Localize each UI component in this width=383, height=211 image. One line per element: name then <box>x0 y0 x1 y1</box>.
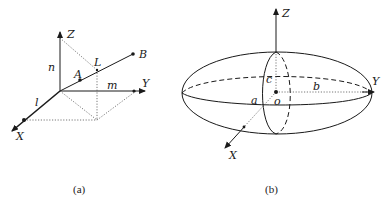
diagram-a: Z B L A n m Y l X <box>12 28 151 143</box>
meridian-back <box>276 52 290 134</box>
diagram-b: Z c b Y a o X <box>182 7 381 162</box>
label-l: l <box>35 96 39 109</box>
projection-z-l <box>60 38 97 70</box>
caption-a: (a) <box>73 183 86 196</box>
label-n: n <box>48 61 55 74</box>
meridian-front <box>263 52 277 134</box>
label-a-axis: a <box>251 94 258 107</box>
point-x <box>22 118 26 122</box>
x-axis-b <box>225 126 245 148</box>
label-m: m <box>107 79 117 92</box>
projection-diag <box>60 91 97 120</box>
caption-b: (b) <box>265 183 278 196</box>
figure-canvas: Z B L A n m Y l X Z c b Y a <box>0 0 383 211</box>
label-y-a: Y <box>142 77 151 90</box>
projection-y-base <box>97 91 136 120</box>
label-a: A <box>73 68 82 81</box>
point-l <box>96 69 98 71</box>
label-origin: o <box>274 95 281 108</box>
origin-point <box>274 90 278 94</box>
label-l-upper: L <box>93 56 101 69</box>
point-b <box>131 52 135 56</box>
label-z-a: Z <box>66 28 75 41</box>
label-b-axis: b <box>313 80 320 93</box>
point-y <box>132 89 135 92</box>
point-x-b <box>243 126 246 129</box>
a-axis <box>243 92 276 128</box>
label-x-b: X <box>228 149 238 162</box>
label-x-a: X <box>15 130 25 143</box>
label-z-b: Z <box>281 7 290 20</box>
label-c: c <box>266 73 272 86</box>
label-y-b: Y <box>372 75 381 88</box>
label-b: B <box>138 48 147 61</box>
